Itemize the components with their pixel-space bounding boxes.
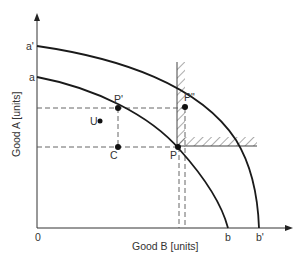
label-b: b — [225, 231, 231, 243]
label-c: C — [110, 149, 118, 161]
horizontal-constraint-band — [178, 137, 257, 146]
guide-lines — [37, 108, 185, 228]
point-u-dot — [98, 119, 103, 124]
x-axis — [37, 225, 293, 231]
y-axis-arrow-icon — [34, 13, 40, 21]
label-b-prime: b' — [256, 231, 264, 243]
x-axis-arrow-icon — [285, 225, 293, 231]
y-axis — [34, 13, 40, 228]
inner-ppf-curve — [37, 77, 228, 228]
y-axis-title: Good A [units] — [10, 92, 22, 157]
label-p-double-prime: P" — [184, 91, 195, 103]
label-a-prime: a' — [26, 40, 34, 52]
label-u: U — [90, 115, 98, 127]
point-p-prime-dot — [115, 105, 121, 111]
point-p-double-prime-dot — [182, 104, 188, 110]
label-p-prime: P' — [114, 93, 123, 105]
x-axis-title: Good B [units] — [132, 240, 199, 252]
label-p: P — [170, 149, 177, 161]
label-origin: 0 — [35, 231, 41, 243]
label-a: a — [29, 71, 35, 83]
ppf-diagram: a' a b b' 0 P' C P P" U Good B [units] G… — [0, 0, 300, 262]
